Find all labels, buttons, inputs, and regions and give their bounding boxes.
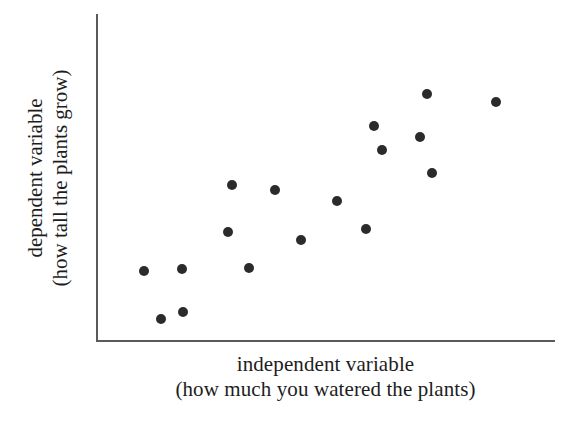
data-point — [415, 132, 425, 142]
data-point — [156, 314, 166, 324]
data-point — [177, 264, 187, 274]
y-axis-title-main: dependent variable — [23, 70, 48, 287]
data-point — [139, 266, 149, 276]
data-point — [244, 263, 254, 273]
x-axis-title-sub: (how much you watered the plants) — [96, 377, 555, 402]
data-point — [369, 121, 379, 131]
data-point — [491, 97, 501, 107]
data-point — [296, 235, 306, 245]
scatter-plot-figure: dependent variable (how tall the plants … — [0, 0, 568, 431]
y-axis-title: dependent variable (how tall the plants … — [0, 14, 96, 342]
data-point — [178, 307, 188, 317]
data-point — [377, 145, 387, 155]
data-point — [270, 185, 280, 195]
x-axis-title-main: independent variable — [96, 352, 555, 377]
data-point — [332, 196, 342, 206]
x-axis-title: independent variable (how much you water… — [96, 352, 555, 402]
plot-area — [98, 14, 555, 340]
data-point — [227, 180, 237, 190]
data-point — [223, 227, 233, 237]
x-axis-line — [96, 340, 555, 342]
y-axis-title-sub: (how tall the plants grow) — [48, 70, 73, 287]
data-point — [361, 224, 371, 234]
data-point — [422, 89, 432, 99]
data-point — [427, 168, 437, 178]
